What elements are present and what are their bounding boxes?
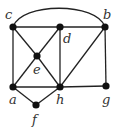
node-label-d: d bbox=[63, 31, 71, 46]
node-d bbox=[56, 23, 63, 30]
node-label-c: c bbox=[5, 7, 13, 22]
node-e bbox=[33, 52, 40, 59]
edge-c-e bbox=[13, 27, 37, 56]
node-c bbox=[9, 23, 16, 30]
edge-b-g bbox=[105, 27, 106, 86]
node-label-h: h bbox=[56, 92, 64, 107]
node-h bbox=[56, 83, 63, 90]
node-f bbox=[32, 101, 39, 108]
node-label-a: a bbox=[9, 92, 17, 107]
graph-diagram: cdbeahgf bbox=[0, 0, 117, 133]
edge-d-e bbox=[37, 27, 60, 56]
node-g bbox=[102, 82, 109, 89]
node-b bbox=[101, 23, 108, 30]
node-a bbox=[9, 83, 16, 90]
node-label-g: g bbox=[102, 92, 110, 107]
node-label-f: f bbox=[31, 112, 39, 127]
node-label-e: e bbox=[33, 62, 41, 77]
node-label-b: b bbox=[103, 7, 111, 22]
edge-h-g bbox=[60, 86, 106, 87]
